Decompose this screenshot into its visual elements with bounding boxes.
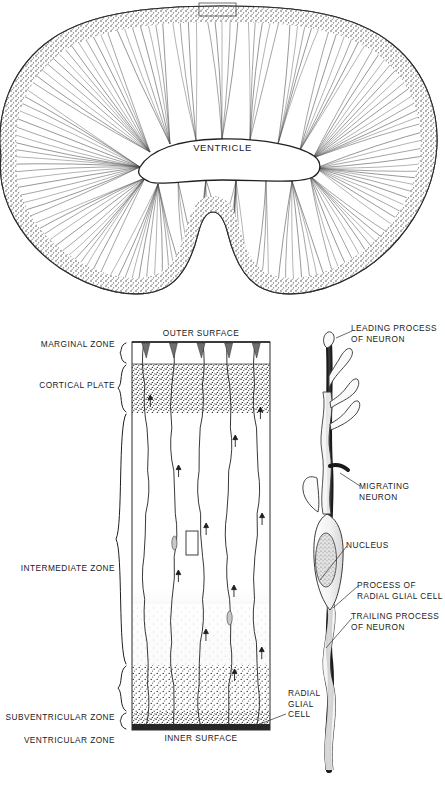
label-leading-process: LEADING PROCESS OF NEURON [351, 323, 445, 344]
label-subventricular-zone: SUBVENTRICULAR ZONE [0, 712, 115, 723]
label-migrating-neuron: MIGRATING NEURON [359, 481, 445, 502]
bottom-panel-cortical-column: MARGINAL ZONE CORTICAL PLATE INTERMEDIAT… [0, 318, 445, 797]
ventricle-label: VENTRICLE [0, 142, 445, 153]
label-inner-surface: INNER SURFACE [132, 733, 270, 744]
nucleus [316, 533, 337, 587]
label-radial-glial-cell: RADIAL GLIAL CELL [288, 688, 358, 720]
label-ventricular-zone: VENTRICULAR ZONE [0, 735, 115, 746]
label-intermediate-zone: INTERMEDIATE ZONE [0, 563, 115, 574]
label-outer-surface: OUTER SURFACE [132, 328, 270, 339]
label-cortical-plate: CORTICAL PLATE [0, 380, 115, 391]
label-glial-process: PROCESS OF RADIAL GLIAL CELL [357, 580, 445, 601]
label-nucleus: NUCLEUS [346, 540, 436, 551]
label-marginal-zone: MARGINAL ZONE [0, 339, 115, 350]
label-trailing-process: TRAILING PROCESS OF NEURON [351, 611, 445, 632]
brain-cross-section-svg [0, 0, 445, 318]
top-panel-brain-cross-section: VENTRICLE [0, 0, 445, 318]
